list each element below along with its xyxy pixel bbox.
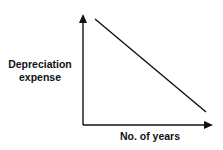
depreciation-line bbox=[95, 19, 206, 112]
x-axis-arrow-icon bbox=[204, 121, 213, 129]
y-axis-label-line-2: expense bbox=[2, 71, 78, 84]
y-axis-label: Depreciation expense bbox=[2, 58, 78, 84]
y-axis-label-line-1: Depreciation bbox=[2, 58, 78, 71]
x-axis-label: No. of years bbox=[100, 130, 200, 142]
y-axis-arrow-icon bbox=[79, 14, 87, 23]
